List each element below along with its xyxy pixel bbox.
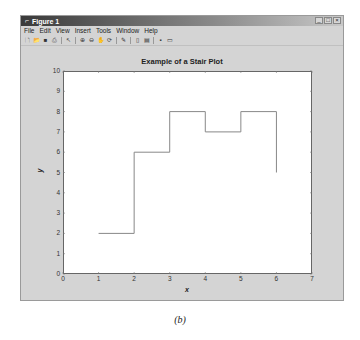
- stair-plot-line: [21, 16, 345, 302]
- figure-window: ⌐ Figure 1 _ □ × File Edit View Insert T…: [20, 15, 344, 301]
- figure-caption: (b): [0, 314, 360, 325]
